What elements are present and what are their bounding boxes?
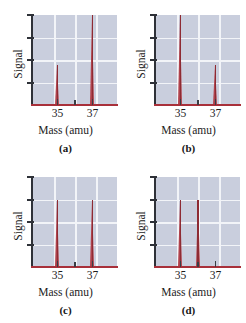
x-axis-tick-major [215, 99, 217, 105]
y-axis-tick [27, 14, 34, 16]
x-axis-tick-major [92, 99, 94, 105]
y-axis-tick [150, 14, 157, 16]
x-axis-tick-label: 35 [169, 107, 193, 119]
panel-letter: (d) [131, 304, 246, 316]
plot-area [156, 177, 240, 267]
plot-area [156, 15, 240, 105]
y-axis-tick [150, 221, 157, 223]
chart-panel-d: Signal3537Mass (amu)(d) [123, 162, 246, 323]
x-axis-label: Mass (amu) [8, 286, 123, 298]
horizontal-gridline [33, 245, 117, 247]
horizontal-gridline [33, 222, 117, 224]
y-axis-label-text: Signal [12, 211, 24, 240]
x-axis-label: Mass (amu) [131, 286, 246, 298]
x-axis-tick-major [180, 261, 182, 267]
y-axis-tick [27, 59, 34, 61]
y-axis-label-text: Signal [12, 49, 24, 78]
chart-panel-c: Signal3537Mass (amu)(c) [0, 162, 123, 323]
panel-letter: (c) [8, 304, 123, 316]
x-axis-tick-minor [197, 262, 199, 267]
spectrum-peak-core [92, 15, 93, 105]
vertical-gridline [219, 15, 221, 105]
x-axis-label: Mass (amu) [8, 124, 123, 136]
plot-area [33, 15, 117, 105]
x-axis-tick-label: 35 [169, 269, 193, 281]
x-axis-tick-minor [74, 262, 76, 267]
spectrum-peak-core [57, 200, 58, 268]
x-axis-tick-label: 37 [204, 107, 228, 119]
x-axis-tick-label: 37 [204, 269, 228, 281]
x-axis-tick-label: 37 [81, 107, 105, 119]
x-axis-tick-major [180, 99, 182, 105]
y-axis-tick [150, 244, 157, 246]
vertical-gridline [96, 177, 98, 267]
y-axis-tick [27, 221, 34, 223]
horizontal-gridline [33, 60, 117, 62]
x-axis-tick-major [57, 99, 59, 105]
plot-area [33, 177, 117, 267]
spectrum-peak-core [180, 15, 181, 105]
x-axis-tick-major [92, 261, 94, 267]
x-axis-tick-label: 35 [46, 107, 70, 119]
y-axis-tick [27, 244, 34, 246]
y-axis-label: Signal [10, 176, 26, 276]
vertical-gridline [96, 15, 98, 105]
y-axis-tick [150, 82, 157, 84]
y-axis-tick [27, 199, 34, 201]
x-axis-tick-label: 35 [46, 269, 70, 281]
panel-letter: (b) [131, 142, 246, 154]
chart-panel-a: Signal3537Mass (amu)(a) [0, 0, 123, 162]
y-axis-tick [150, 199, 157, 201]
spectrum-peak-core [92, 200, 93, 268]
y-axis-tick [150, 176, 157, 178]
x-axis-tick-major [215, 261, 217, 267]
x-axis-label: Mass (amu) [131, 124, 246, 136]
y-axis-label: Signal [133, 14, 149, 114]
vertical-gridline [219, 177, 221, 267]
y-axis-tick [150, 37, 157, 39]
x-axis-tick-minor [74, 100, 76, 105]
spectrum-peak-core [197, 200, 198, 268]
y-axis-label: Signal [133, 176, 149, 276]
y-axis-tick [150, 59, 157, 61]
y-axis-label-text: Signal [135, 211, 147, 240]
y-axis-label: Signal [10, 14, 26, 114]
x-axis-tick-major [57, 261, 59, 267]
horizontal-gridline [156, 60, 240, 62]
horizontal-gridline [156, 83, 240, 85]
y-axis-tick [27, 176, 34, 178]
chart-panel-b: Signal3537Mass (amu)(b) [123, 0, 246, 162]
y-axis-tick [27, 82, 34, 84]
x-axis-tick-minor [197, 100, 199, 105]
y-axis-label-text: Signal [135, 49, 147, 78]
x-axis-tick-label: 37 [81, 269, 105, 281]
mass-spectra-figure: Signal3537Mass (amu)(a)Signal3537Mass (a… [0, 0, 246, 323]
spectrum-peak-core [180, 200, 181, 268]
panel-letter: (a) [8, 142, 123, 154]
horizontal-gridline [33, 83, 117, 85]
y-axis-tick [27, 37, 34, 39]
